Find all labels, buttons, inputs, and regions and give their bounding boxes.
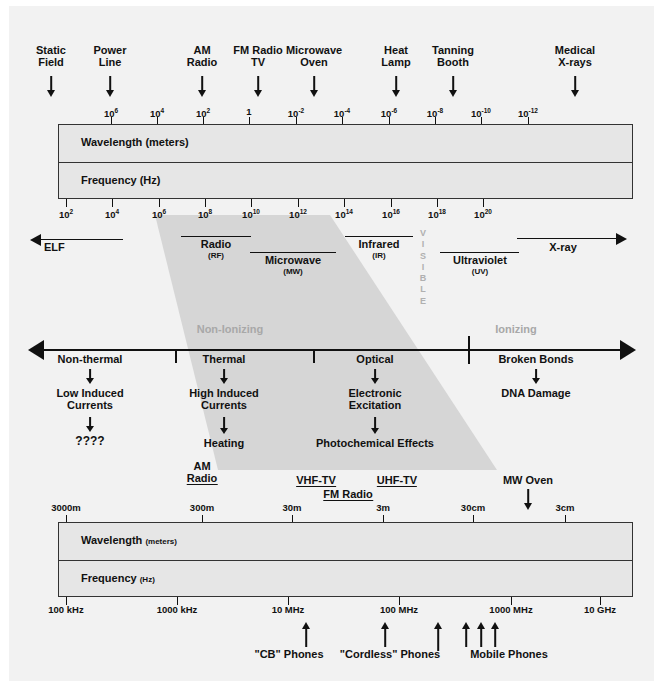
mobile-phones-arrow-icon-2: [477, 622, 485, 629]
cordless-phones-arrow-icon-1: [381, 622, 389, 629]
spectrum-right-arrow-icon: [620, 340, 636, 360]
top-wavelength-box-label: Wavelength (meters): [81, 136, 189, 148]
bottom-source-mw-oven: MW Oven: [503, 474, 553, 486]
band-label-ultraviolet-abbrev: (UV): [472, 268, 488, 277]
mobile-phones-arrow-icon-1: [462, 622, 470, 629]
top-frequency-tick-0: [66, 199, 67, 207]
band-label-infrared: Infrared: [359, 238, 400, 250]
scale-segment-broken-bonds: Broken Bonds: [498, 353, 573, 365]
top-source-static-field: StaticField: [36, 44, 66, 69]
bottom-wavelength-label-1: 300m: [190, 503, 214, 514]
cb-phones-arrow-stem: [305, 629, 307, 647]
top-frequency-label-5: 1012: [289, 208, 307, 221]
top-source-microwave-oven: MicrowaveOven: [286, 44, 342, 69]
effect-electronic-excitation: ElectronicExcitation: [348, 387, 401, 412]
effect-heating: Heating: [204, 437, 244, 449]
top-source-am-radio: AMRadio: [187, 44, 218, 69]
top-frequency-tick-8: [437, 199, 438, 207]
bottom-wavelength-label-2: 30m: [282, 503, 301, 514]
spectrum-left-arrow-icon: [28, 340, 44, 360]
mobile-phones-arrow-stem-2: [480, 629, 482, 647]
bottom-wavelength-box-label: Wavelength (meters): [81, 534, 177, 546]
top-frequency-tick-4: [251, 199, 252, 207]
band-label-elf: ELF: [44, 241, 65, 253]
effect-high-induced-currents: High InducedCurrents: [189, 387, 259, 412]
top-frequency-tick-9: [483, 199, 484, 207]
bottom-frequency-label-2: 10 MHz: [272, 605, 305, 616]
top-frequency-label-8: 1018: [428, 208, 446, 221]
top-frequency-tick-5: [298, 199, 299, 207]
non-ionizing-label: Non-Ionizing: [197, 323, 264, 335]
top-source-medical-xrays: MedicalX-rays: [555, 44, 595, 69]
top-frequency-label-4: 1010: [242, 208, 260, 221]
bottom-frequency-label-0: 100 kHz: [48, 605, 83, 616]
scale-divider-3: [468, 336, 470, 364]
scale-segment-optical: Optical: [356, 353, 393, 365]
bottom-source-uhf-tv: UHF-TV: [377, 474, 417, 487]
mobile-phones-arrow-stem-1: [465, 629, 467, 647]
bottom-wavelength-label-0: 3000m: [51, 503, 81, 514]
mw-oven-arrow-stem: [527, 489, 529, 504]
bottom-frequency-box-label: Frequency (Hz): [81, 572, 155, 584]
xray-band-line: [517, 238, 617, 239]
band-label-visible: VISIBLE: [420, 228, 427, 307]
top-frequency-label-2: 106: [152, 208, 166, 221]
band-label-xray: X-ray: [549, 241, 577, 253]
top-frequency-tick-7: [391, 199, 392, 207]
cordless-phones-arrow-icon-2: [434, 622, 442, 629]
bottom-frequency-label-4: 1000 MHz: [489, 605, 532, 616]
top-source-heat-lamp: HeatLamp: [381, 44, 410, 69]
top-source-fm-radio-tv: FM RadioTV: [233, 44, 283, 69]
top-frequency-label-1: 104: [105, 208, 119, 221]
band-label-microwave-abbrev: (MW): [283, 268, 303, 277]
bottom-frequency-label-5: 10 GHz: [584, 605, 616, 616]
bottom-wavelength-label-3: 3m: [376, 503, 390, 514]
top-spectrum-box: Wavelength (meters) Frequency (Hz): [58, 124, 633, 199]
band-label-microwave: Microwave: [265, 254, 321, 266]
spectrum-axis-line: [43, 349, 621, 351]
elf-left-arrow-icon: [30, 234, 41, 246]
mw-oven-arrow-icon: [524, 503, 532, 510]
band-label-infrared-abbrev: (IR): [372, 252, 385, 261]
bottom-source-vhf-tv: VHF-TV: [296, 474, 336, 487]
top-frequency-tick-3: [205, 199, 206, 207]
scale-divider-1: [175, 349, 177, 363]
ionizing-label: Ionizing: [495, 323, 537, 335]
electromagnetic-spectrum-diagram: StaticField PowerLine AMRadio FM RadioTV…: [0, 0, 663, 687]
top-frequency-tick-6: [344, 199, 345, 207]
annotation-mobile-phones: Mobile Phones: [470, 648, 548, 660]
bottom-wavelength-label-4: 30cm: [461, 503, 485, 514]
scale-segment-thermal: Thermal: [203, 353, 246, 365]
top-frequency-label-9: 1020: [474, 208, 492, 221]
xray-right-arrow-icon: [616, 233, 627, 245]
mobile-phones-arrow-icon-3: [491, 622, 499, 629]
top-frequency-tick-1: [112, 199, 113, 207]
scale-divider-2: [313, 349, 315, 363]
bottom-wavelength-label-5: 3cm: [555, 503, 574, 514]
top-frequency-label-6: 1014: [335, 208, 353, 221]
top-frequency-label-0: 102: [59, 208, 73, 221]
top-frequency-label-3: 108: [198, 208, 212, 221]
top-frequency-tick-2: [159, 199, 160, 207]
effect-unknown: ????: [75, 435, 104, 448]
bottom-source-fm-radio: FM Radio: [323, 488, 373, 501]
bottom-spectrum-box: Wavelength (meters) Frequency (Hz): [58, 522, 633, 597]
effect-low-induced-currents: Low InducedCurrents: [56, 387, 123, 412]
effect-photochemical: Photochemical Effects: [316, 437, 434, 449]
top-source-tanning-booth: TanningBooth: [432, 44, 474, 69]
bottom-source-am-radio: AMRadio: [187, 460, 218, 485]
top-frequency-box-label: Frequency (Hz): [81, 174, 160, 186]
scale-segment-non-thermal: Non-thermal: [58, 353, 123, 365]
top-frequency-label-7: 1016: [382, 208, 400, 221]
top-source-power-line: PowerLine: [93, 44, 126, 69]
band-label-radio-abbrev: (RF): [208, 252, 224, 261]
bottom-frequency-label-3: 100 MHz: [380, 605, 418, 616]
band-label-ultraviolet: Ultraviolet: [453, 254, 507, 266]
bottom-frequency-label-1: 1000 kHz: [157, 605, 198, 616]
cordless-phones-arrow-stem-1: [384, 629, 386, 647]
band-label-radio: Radio: [201, 238, 232, 250]
annotation-cb-phones: "CB" Phones: [254, 648, 323, 660]
cb-phones-arrow-icon: [302, 622, 310, 629]
effect-dna-damage: DNA Damage: [501, 387, 570, 399]
annotation-cordless-phones: "Cordless" Phones: [340, 648, 440, 660]
